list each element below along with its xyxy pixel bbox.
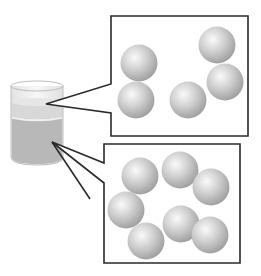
particle [207, 64, 244, 101]
particle [108, 192, 145, 229]
particle [118, 82, 155, 119]
particle [193, 169, 230, 206]
beaker [11, 81, 63, 165]
particle [199, 27, 236, 64]
particle [170, 82, 207, 119]
particle [122, 158, 159, 195]
beaker-particle-diagram [0, 0, 261, 276]
particle [192, 217, 229, 254]
particle [128, 223, 165, 260]
particle [121, 45, 158, 82]
beaker-lower-layer [12, 118, 62, 164]
